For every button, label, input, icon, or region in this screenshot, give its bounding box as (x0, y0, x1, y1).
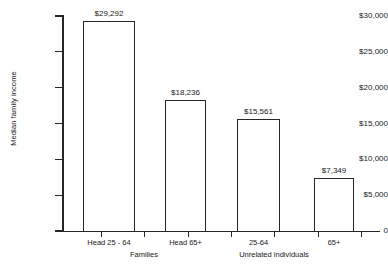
y-axis-tick (55, 15, 62, 16)
y-axis-tick (55, 87, 62, 88)
y-axis-tick (55, 51, 62, 52)
y-axis-tick (55, 195, 62, 196)
bar-value-label: $18,236 (156, 88, 216, 97)
x-axis-tick (231, 231, 232, 237)
x-axis-tick (274, 231, 275, 237)
y-axis-title: Median family income (9, 44, 18, 174)
bar-value-label: $7,349 (304, 166, 364, 175)
y-axis-tick (55, 123, 62, 124)
bar (314, 178, 354, 231)
bar-chart: Median family income 0$5,000$10,000$15,0… (0, 0, 388, 266)
x-axis-group-label: Families (74, 250, 214, 259)
x-axis-tick (361, 231, 362, 237)
y-axis-tick-label: $15,000 (334, 119, 388, 128)
y-axis-tick-label: $10,000 (334, 154, 388, 163)
x-axis-tick (144, 231, 145, 237)
y-axis-tick (55, 159, 62, 160)
y-axis-line (62, 15, 64, 232)
y-axis-tick-label: $30,000 (334, 11, 388, 20)
x-axis-group-label: Unrelated individuals (204, 250, 344, 259)
bar (83, 21, 135, 231)
x-axis-category-label: 65+ (289, 238, 379, 247)
bar-value-label: $29,292 (79, 9, 139, 18)
y-axis-tick-label: $25,000 (334, 47, 388, 56)
bar-value-label: $15,561 (229, 107, 289, 116)
x-axis-tick (101, 231, 102, 237)
bar (237, 119, 280, 231)
bar (165, 100, 206, 231)
y-axis-tick (55, 230, 62, 231)
y-axis-tick-label: $20,000 (334, 83, 388, 92)
x-axis-tick (188, 231, 189, 237)
x-axis-tick (318, 231, 319, 237)
